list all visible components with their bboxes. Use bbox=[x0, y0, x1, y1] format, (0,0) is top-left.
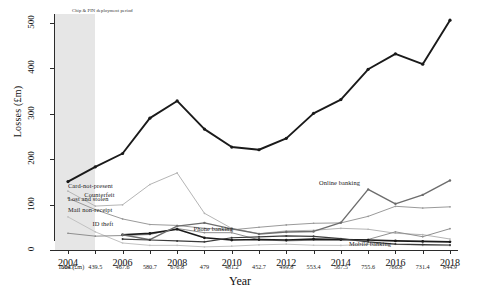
series-point bbox=[285, 235, 287, 237]
series-point bbox=[367, 216, 369, 218]
series-point bbox=[394, 240, 397, 243]
series-label-online-banking: Online banking bbox=[319, 179, 360, 186]
y-tick-label: 400 bbox=[26, 50, 36, 84]
series-line bbox=[68, 173, 450, 239]
series-point bbox=[340, 238, 342, 240]
series-point bbox=[122, 204, 124, 206]
series-point bbox=[312, 230, 314, 232]
series-label-mail-non-receipt: Mail non-receipt bbox=[68, 206, 112, 213]
series-point bbox=[204, 232, 206, 234]
series-point bbox=[258, 236, 260, 238]
series-label-card-not-present: Card-not-present bbox=[68, 182, 113, 189]
series-line bbox=[68, 217, 450, 247]
series-point bbox=[176, 228, 179, 231]
series-point bbox=[258, 226, 260, 228]
plot-area: Chip & PIN deployment period 01002003004… bbox=[54, 14, 458, 241]
series-point bbox=[367, 68, 370, 71]
series-point bbox=[340, 227, 342, 229]
series-point bbox=[313, 235, 315, 237]
series-point bbox=[395, 205, 397, 207]
series-point bbox=[258, 244, 260, 246]
series-point bbox=[258, 238, 261, 241]
series-point bbox=[203, 127, 206, 130]
series-point bbox=[422, 244, 424, 246]
series-point bbox=[94, 235, 96, 237]
series-point bbox=[258, 233, 260, 235]
series-point bbox=[394, 203, 396, 205]
series-point bbox=[230, 145, 233, 148]
series-point bbox=[422, 234, 424, 236]
series-point bbox=[422, 194, 424, 196]
series-point bbox=[312, 238, 315, 241]
series-point bbox=[257, 148, 260, 151]
y-tick-label: 0 bbox=[26, 232, 36, 266]
series-point bbox=[203, 241, 205, 243]
series-point bbox=[285, 243, 287, 245]
series-point bbox=[449, 206, 451, 208]
series-point bbox=[176, 225, 178, 227]
x-axis-title: Year bbox=[0, 274, 480, 289]
chart-container: Losses (£m) Year Chip & PIN deployment p… bbox=[0, 0, 480, 297]
series-point bbox=[176, 240, 178, 242]
series-point bbox=[449, 228, 451, 230]
series-point bbox=[313, 244, 315, 246]
series-point bbox=[285, 231, 287, 233]
series-point bbox=[121, 234, 123, 236]
series-point bbox=[449, 179, 451, 181]
series-point bbox=[395, 231, 397, 233]
series-point bbox=[176, 99, 179, 102]
y-tick-label: 200 bbox=[26, 141, 36, 175]
y-tick-label: 500 bbox=[26, 5, 36, 39]
series-point bbox=[148, 117, 151, 120]
series-point bbox=[422, 207, 424, 209]
series-point bbox=[448, 19, 451, 22]
series-point bbox=[394, 52, 397, 55]
series-point bbox=[231, 232, 233, 234]
series-point bbox=[149, 232, 152, 235]
series-point bbox=[149, 184, 151, 186]
series-point bbox=[231, 245, 233, 247]
series-point bbox=[313, 222, 315, 224]
series-point bbox=[421, 63, 424, 66]
series-point bbox=[339, 98, 342, 101]
series-point bbox=[285, 137, 288, 140]
series-point bbox=[285, 224, 287, 226]
series-point bbox=[67, 216, 69, 218]
series-point bbox=[422, 236, 424, 238]
series-point bbox=[94, 231, 96, 233]
series-point bbox=[230, 239, 233, 242]
series-point bbox=[203, 236, 206, 239]
series-label-mobile-banking: Mobile banking bbox=[349, 240, 391, 247]
series-point bbox=[122, 238, 124, 240]
series-lines bbox=[54, 14, 458, 251]
series-point bbox=[121, 152, 124, 155]
y-axis-title: Losses (£m) bbox=[12, 62, 23, 162]
series-label-lost-and-stolen: Lost and stolen bbox=[68, 195, 109, 202]
series-point bbox=[312, 112, 315, 115]
series-point bbox=[204, 246, 206, 248]
series-point bbox=[122, 218, 124, 220]
y-tick-label: 300 bbox=[26, 96, 36, 130]
series-point bbox=[449, 244, 451, 246]
series-point bbox=[394, 243, 396, 245]
total-value: 844.9 bbox=[432, 263, 468, 270]
series-line bbox=[68, 20, 450, 181]
series-point bbox=[67, 232, 69, 234]
series-point bbox=[122, 242, 124, 244]
series-point bbox=[67, 190, 69, 192]
series-point bbox=[367, 228, 369, 230]
series-point bbox=[149, 224, 151, 226]
series-point bbox=[149, 239, 151, 241]
series-point bbox=[176, 244, 178, 246]
series-point bbox=[231, 237, 233, 239]
series-label-id-theft: ID theft bbox=[93, 220, 114, 227]
series-point bbox=[94, 165, 97, 168]
series-point bbox=[176, 172, 178, 174]
series-point bbox=[449, 238, 451, 240]
series-point bbox=[204, 212, 206, 214]
chip-and-pin-band-label: Chip & PIN deployment period bbox=[72, 8, 133, 13]
y-tick-label: 100 bbox=[26, 187, 36, 221]
series-point bbox=[340, 221, 342, 223]
series-point bbox=[367, 188, 369, 190]
series-point bbox=[340, 245, 342, 247]
